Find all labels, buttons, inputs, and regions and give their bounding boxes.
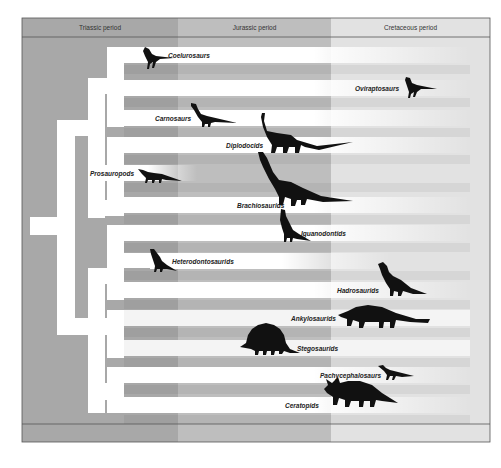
trunk-branch [57,120,75,335]
taxon-label: Ankylosaurids [290,315,336,323]
lineage-ceratopids: Ceratopids [124,397,470,413]
coelurosaur-join [107,47,124,97]
taxon-label: Oviraptosaurs [355,85,399,93]
ornithischia-lower-branch [88,383,124,400]
row-strip [124,65,470,74]
taxon-label: Carnosaurs [155,115,192,122]
saurischia-vertical [88,78,105,218]
taxon-label: Prosauropods [90,170,134,178]
lineage-coelurosaurs: Coelurosaurs [124,47,470,63]
period-label: Triassic period [79,24,121,32]
taxon-label: Coelurosaurs [168,52,210,59]
lineage-bar [124,367,470,383]
period-label: Cretaceous period [384,24,437,32]
row-strip [124,385,470,394]
lineage-ankylosaurids: Ankylosaurids [124,310,470,326]
row-strip [124,271,470,280]
row-strip [124,98,470,107]
thyreophoran-vertical [107,310,124,358]
taxon-label: Hadrosaurids [337,287,379,294]
row-strip [124,128,470,137]
row-strip [124,358,470,367]
taxon-label: Iguanodontids [301,230,346,238]
taxon-label: Heterodontosaurids [172,258,234,265]
lineage-pachycephalosaurs: Pachycephalosaurs [124,367,470,383]
taxon-label: Diplodocids [226,142,264,150]
heterodonto-branch [107,253,152,268]
row-strip [124,328,470,337]
lineage-stegosaurids: Stegosaurids [124,340,470,356]
row-strip [124,300,470,309]
row-strip [124,215,470,224]
taxon-label: Stegosaurids [297,345,339,353]
taxon-label: Pachycephalosaurs [320,372,381,380]
row-strip [124,155,470,164]
lineage-bar [124,282,470,298]
taxon-label: Brachiosaurids [237,202,285,209]
row-strip [124,415,470,424]
lineage-hadrosaurids: Hadrosaurids [124,282,470,298]
lineage-heterodontosaurids: Heterodontosaurids [150,253,390,269]
lineage-carnosaurs: Carnosaurs [124,110,470,126]
taxon-label: Ceratopids [285,402,319,410]
period-label: Jurassic period [233,24,277,32]
phylogeny-diagram: Triassic periodJurassic periodCretaceous… [0,0,501,468]
row-strip [124,243,470,252]
